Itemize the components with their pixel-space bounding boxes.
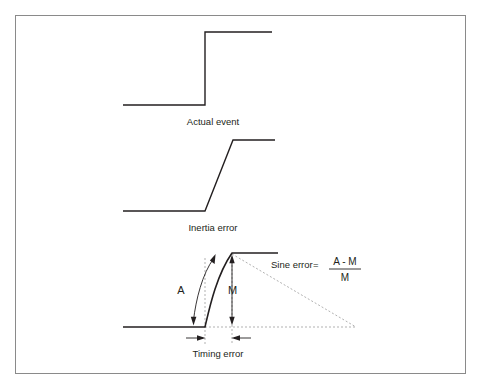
sine-error-diagram: Actual event Inertia error A [0,0,481,389]
formula-denominator: M [341,272,349,283]
sine-error-waveform [123,253,278,327]
amplitude-label: A [177,284,185,296]
measured-arrow-head-bottom [229,317,234,326]
figure-border [16,16,466,374]
figure-container: Actual event Inertia error A [0,0,481,389]
amplitude-arrow-head-bottom [191,317,197,326]
panel-actual-event: Actual event [123,32,272,127]
timing-arrow-left-head [197,335,206,340]
panel-sine-error: A M Timing error [123,253,357,359]
sine-error-formula: Sine error = A - M M [271,256,361,283]
formula-equals: = [313,259,319,270]
actual-event-waveform [123,32,272,105]
actual-event-label: Actual event [187,116,240,127]
formula-name: Sine error [271,259,313,270]
amplitude-arrow-curve [194,258,215,320]
timing-error-arrows [186,335,251,340]
formula-numerator: A - M [333,256,356,267]
timing-arrow-right-head [232,335,241,340]
inertia-error-waveform [123,140,275,211]
inertia-error-label: Inertia error [188,222,237,233]
timing-error-label: Timing error [193,348,244,359]
panel-inertia-error: Inertia error [123,140,275,233]
measured-label: M [228,284,237,296]
